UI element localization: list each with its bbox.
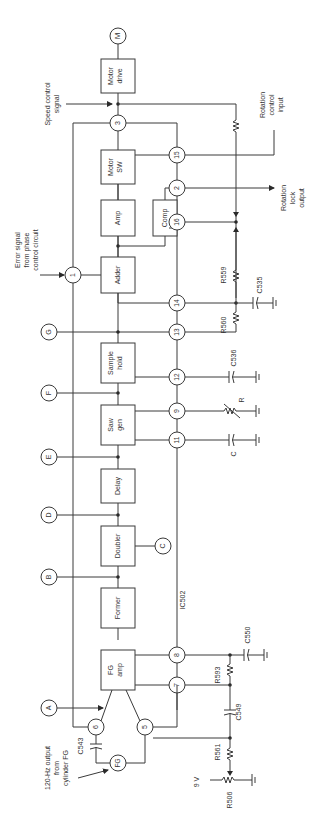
rotation-lock-label: Rotation	[280, 185, 287, 211]
speed-control-block-diagram: M Motor drive Speed control signal 3 Mot…	[0, 0, 314, 817]
pin-3-label: 3	[114, 121, 121, 125]
junction	[116, 455, 120, 459]
test-point-d-label: D	[45, 512, 52, 517]
rotation-control-label: Rotation	[259, 92, 266, 118]
pin-7-label: 7	[173, 683, 180, 687]
c536-label: C536	[230, 350, 237, 367]
pin-9-label: 9	[173, 409, 180, 413]
block-doubler-label: Doubler	[114, 533, 121, 558]
block-adder-label: Adder	[114, 265, 121, 284]
block-amp-label: Amp	[114, 211, 122, 226]
ic-label: IC502	[179, 591, 186, 610]
test-point-a-label: A	[45, 705, 52, 710]
resistor-r593	[227, 655, 233, 685]
variable-resistor-r	[224, 408, 256, 414]
rotation-lock-label2: lock	[289, 191, 296, 204]
pin-1-label: 1	[69, 273, 76, 277]
potentiometer-r506	[222, 777, 252, 783]
block-saw-gen-label2: gen	[116, 419, 124, 431]
block-motor-drive-label2: drive	[116, 68, 123, 83]
wire	[126, 690, 140, 721]
resistor-r561	[227, 738, 233, 774]
r506-label: R506	[226, 792, 233, 809]
block-sample-hold-label: Sample	[107, 351, 115, 375]
r560-label: R560	[220, 317, 227, 334]
motor-label: M	[113, 32, 122, 39]
pin-6-label: 6	[92, 725, 99, 729]
block-motor-drive-label: Motor	[107, 66, 114, 85]
r561-label: R561	[214, 744, 221, 761]
fg-input-arrow	[78, 770, 108, 778]
speed-control-label: Speed control	[44, 82, 52, 126]
error-signal-label3: control circuit	[32, 229, 39, 270]
diode-arrow	[233, 212, 239, 217]
block-delay-label: Delay	[114, 477, 122, 495]
c535-label: C535	[256, 277, 263, 294]
error-signal-label: Error signal	[14, 232, 22, 268]
test-point-c-label: C	[159, 543, 166, 548]
c543-label: C543	[77, 738, 84, 755]
error-signal-label2: from phase	[23, 232, 31, 267]
test-point-b-label: B	[45, 574, 52, 579]
supply-voltage-label: 9 V	[193, 776, 200, 787]
pin-8-label: 8	[173, 653, 180, 657]
resistor-r560	[233, 303, 239, 332]
pin-2-label: 2	[173, 186, 180, 190]
test-point-e-label: E	[45, 454, 52, 459]
c550-label: C550	[244, 627, 251, 644]
pin-12-label: 12	[173, 373, 180, 381]
block-motor-sw-label: Motor	[107, 157, 114, 176]
potentiometer-wiper	[227, 771, 233, 776]
wire	[101, 690, 112, 721]
block-former-label: Former	[114, 596, 121, 619]
block-saw-gen-label: Saw	[107, 417, 114, 432]
resistor-r559	[233, 232, 239, 303]
speed-control-label2: signal	[53, 94, 61, 113]
resistor-symbol	[233, 120, 239, 132]
test-point-f-label: F	[45, 391, 52, 395]
rotation-control-label2: control	[268, 94, 275, 115]
pin-13-label: 13	[173, 328, 180, 336]
junction	[116, 391, 120, 395]
pin-16-label: 16	[173, 218, 180, 226]
c549-label: C549	[235, 704, 242, 721]
fg-output-label3: cylinder FG	[62, 750, 70, 786]
rotation-control-label3: input	[277, 97, 285, 112]
block-comp-label: Comp	[161, 209, 169, 228]
test-point-g-label: G	[45, 329, 52, 334]
r-label: R	[238, 397, 245, 402]
pin-14-label: 14	[173, 299, 180, 307]
block-fg-amp-label2: amp	[116, 663, 124, 677]
pin-15-label: 15	[173, 151, 180, 159]
r593-label: R593	[214, 667, 221, 684]
c-label: C	[230, 451, 237, 456]
junction	[116, 330, 120, 334]
block-motor-sw-label2: SW	[116, 161, 123, 173]
junction	[234, 220, 238, 224]
r559-label: R559	[220, 267, 227, 284]
pin-5-label: 5	[141, 725, 148, 729]
junction	[116, 575, 120, 579]
fg-output-label: 120-Hz output	[44, 746, 52, 790]
junction	[116, 513, 120, 517]
rotation-lock-label3: output	[298, 188, 306, 208]
block-fg-amp-label: FG	[107, 665, 114, 675]
diode-arrow	[233, 227, 239, 232]
pin-11-label: 11	[173, 436, 180, 443]
fg-output-label2: from	[53, 761, 60, 775]
fg-sensor-label: FG	[114, 758, 121, 767]
block-sample-hold-label2: hold	[116, 356, 123, 369]
